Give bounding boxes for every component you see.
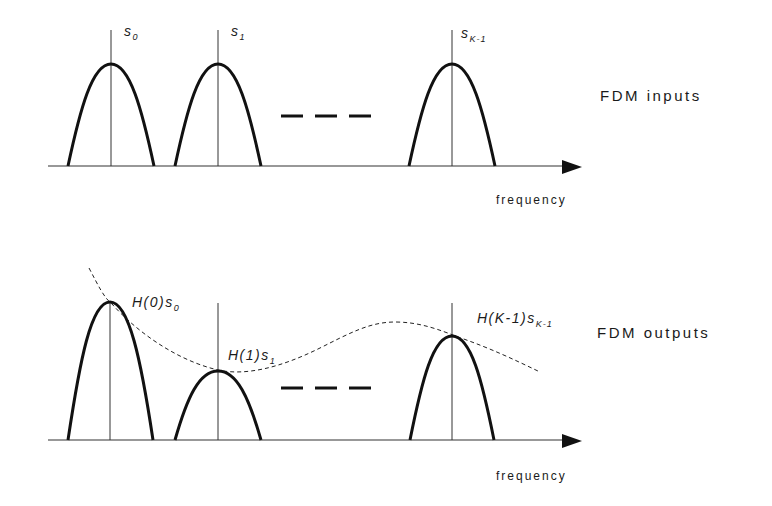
panel-title-outputs: FDM outputs [597, 324, 710, 341]
panel-title-inputs: FDM inputs [600, 87, 702, 104]
signal-label-s0: s0 [124, 23, 139, 42]
signal-label-sK-1: sK-1 [461, 25, 487, 44]
arrowhead-icon [562, 160, 582, 174]
diagram-graphics [0, 0, 772, 506]
bottom-panel-graphics [48, 268, 582, 448]
axis-label-frequency-bottom: frequency [496, 469, 567, 483]
axis-label-frequency-top: frequency [496, 193, 567, 207]
signal-label-h1s1: H(1)s1 [228, 347, 276, 366]
top-panel-graphics [48, 30, 582, 174]
signal-label-h0s0: H(0)s0 [132, 294, 180, 313]
fdm-diagram: s0 s1 sK-1 FDM inputs frequency H(0)s0 H… [0, 0, 772, 506]
signal-label-s1: s1 [231, 23, 246, 42]
arrowhead-icon [562, 434, 582, 448]
signal-label-hK-1sK-1: H(K-1)sK-1 [477, 310, 553, 329]
